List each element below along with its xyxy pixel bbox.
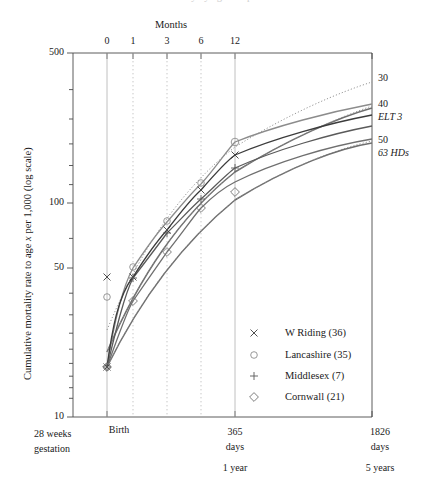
chart-figure: Mortality by age and place — [0, 0, 426, 489]
bottom-label-gestation-line1: 28 weeks — [34, 428, 72, 440]
bottom-label-birth: Birth — [109, 424, 130, 436]
top-tick-label-12: 12 — [230, 35, 240, 47]
reference-curves — [107, 82, 372, 367]
bottom-label-days-5years: days — [371, 441, 389, 453]
bottom-axis-ticks — [107, 411, 372, 417]
legend-item-middlesex: Middlesex (7) — [285, 370, 344, 382]
legend-diamond-marker — [250, 393, 259, 402]
reference-curve-elt3-40-dot — [107, 106, 372, 352]
top-tick-label-3: 3 — [165, 35, 170, 47]
bottom-label-days-1year: days — [226, 441, 244, 453]
y-axis-label-prefix: Cumulative mortality rate to age — [22, 244, 33, 380]
right-label-63hds: 63 HDs — [378, 147, 409, 159]
legend-cross-x-marker — [251, 330, 258, 337]
reference-curve-30 — [107, 82, 372, 330]
legend-circle-marker — [251, 352, 258, 359]
y-axis-label-suffix: per 1,000 (log scale) — [22, 147, 33, 233]
axis-frame — [73, 53, 372, 417]
right-label-elt3: ELT 3 — [378, 111, 402, 123]
top-tick-label-6: 6 — [199, 35, 204, 47]
y-tick-label-10: 10 — [54, 410, 64, 422]
legend-plus-marker — [250, 372, 258, 380]
bottom-label-365: 365 — [228, 426, 243, 438]
bottom-label-1-year: 1 year — [223, 462, 248, 474]
legend-markers — [250, 330, 259, 402]
top-tick-label-0: 0 — [105, 35, 110, 47]
bottom-label-gestation-line2: gestation — [34, 443, 70, 455]
series-markers-cornwall — [129, 188, 240, 306]
bottom-label-5-years: 5 years — [366, 462, 395, 474]
y-tick-label-50: 50 — [54, 261, 64, 273]
y-axis-label: Cumulative mortality rate to age x per 1… — [22, 60, 36, 380]
y-axis-ticks — [67, 53, 73, 417]
right-label-30: 30 — [378, 72, 388, 84]
y-tick-label-100: 100 — [49, 196, 64, 208]
top-axis-title: Months — [155, 19, 187, 31]
legend-item-cornwall: Cornwall (21) — [285, 391, 344, 403]
vertical-solid-gridlines — [107, 53, 235, 417]
legend-item-lancashire: Lancashire (35) — [285, 349, 351, 361]
right-label-50: 50 — [378, 134, 388, 146]
bottom-label-1826: 1826 — [370, 426, 390, 438]
y-axis-label-variable: x — [22, 236, 33, 241]
legend-item-w-riding: W Riding (36) — [285, 327, 346, 339]
right-label-40: 40 — [378, 98, 388, 110]
y-tick-label-500: 500 — [49, 46, 64, 58]
top-axis-ticks — [107, 53, 372, 59]
top-tick-label-1: 1 — [131, 35, 136, 47]
series-markers-origin — [103, 363, 112, 372]
